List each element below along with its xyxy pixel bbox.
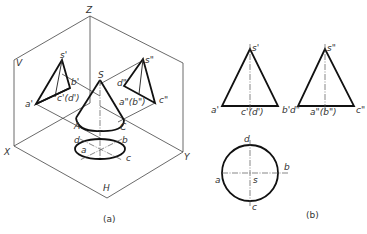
label-b-d-dprime: d" xyxy=(290,105,300,115)
label-s-dprime: s" xyxy=(145,55,154,65)
label-apex-s: S xyxy=(98,70,104,80)
label-b-b-prime: b' xyxy=(282,105,290,115)
label-y: Y xyxy=(184,152,191,162)
caption-a: (a) xyxy=(103,214,116,224)
label-cd-prime: c'(d') xyxy=(57,93,80,103)
label-top-c: c xyxy=(126,153,131,163)
label-b-s-prime: s' xyxy=(252,43,259,53)
label-top-d: d xyxy=(74,135,80,145)
label-b-ab-dprime: a"(b") xyxy=(310,107,337,117)
label-b-top-d: d xyxy=(244,134,250,144)
label-a-prime: a' xyxy=(25,99,33,109)
label-c-dprime: c" xyxy=(159,95,168,105)
label-v: V xyxy=(16,58,23,68)
projection-box xyxy=(14,16,183,198)
label-b-top-c: c xyxy=(252,202,257,212)
label-d-dprime: d" xyxy=(117,78,127,88)
front-view-b xyxy=(222,44,278,110)
cone-projection-diagram: Z V X Y H S A C s' a' b' c'(d') s" d" a"… xyxy=(0,0,367,234)
label-s-prime: s' xyxy=(60,50,67,60)
label-b-s-dprime: s" xyxy=(327,43,336,53)
label-b-top-s: s xyxy=(253,175,258,185)
label-h: H xyxy=(103,183,110,193)
label-C: C xyxy=(120,122,127,132)
label-x: X xyxy=(3,147,11,157)
label-b-cd-prime: c'(d') xyxy=(241,107,264,117)
label-top-b: b xyxy=(122,135,128,145)
label-A: A xyxy=(73,121,80,131)
label-b-prime: b' xyxy=(71,77,79,87)
label-ab-dprime: a"(b") xyxy=(119,97,146,107)
caption-b: (b) xyxy=(306,210,319,220)
label-b-a-prime: a' xyxy=(211,105,219,115)
label-b-top-b: b xyxy=(284,162,290,172)
label-b-c-dprime: c" xyxy=(356,105,365,115)
side-view-b xyxy=(298,44,354,110)
label-z: Z xyxy=(85,5,93,15)
label-top-a: a xyxy=(81,145,87,155)
top-view-b xyxy=(222,140,288,206)
label-b-top-a: a xyxy=(215,175,221,185)
